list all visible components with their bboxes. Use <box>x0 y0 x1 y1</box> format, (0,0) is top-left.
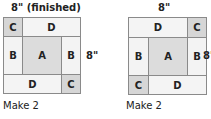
block-1-piece-b-left: B <box>3 36 23 75</box>
block-2-piece-b-left: B <box>128 37 149 76</box>
block-2-height-label: 8" <box>203 50 211 61</box>
block-1-piece-d-bottom: D <box>3 74 62 94</box>
block-2-piece-d-bottom: D <box>148 75 207 95</box>
block-1-piece-c-top: C <box>3 17 23 37</box>
quilt-block-2: D C B A B C D <box>128 17 207 95</box>
block-1-width-label: 8" (finished) <box>11 2 81 13</box>
block-1-piece-a-center: A <box>22 36 62 75</box>
block-2-caption: Make 2 <box>126 100 162 111</box>
block-1-piece-b-right: B <box>61 36 81 75</box>
block-2-piece-d-top: D <box>128 17 188 38</box>
block-2-width-label: 8" <box>158 2 170 13</box>
block-1-piece-d-top: D <box>22 17 81 37</box>
block-2-piece-c-top: C <box>187 17 207 38</box>
block-2-piece-a-center: A <box>148 37 188 76</box>
quilt-block-1: C D B A B D C <box>3 17 81 94</box>
block-1-height-label: 8" <box>86 50 98 61</box>
block-1-piece-c-bottom: C <box>61 74 81 94</box>
block-2-piece-c-bottom: C <box>128 75 149 95</box>
block-1-caption: Make 2 <box>3 100 39 111</box>
